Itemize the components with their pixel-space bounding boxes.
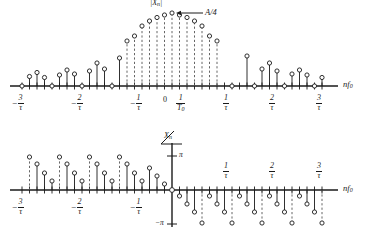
phase-ytick-pi: π [179,151,183,159]
peak-value-label: A/4 [205,8,217,17]
phase-xtick-2-tau: 2τ [269,162,275,180]
phase-y-axis-label: Xn [164,132,172,140]
phase-stems-right-solid [180,190,315,212]
phase-x-axis-label: nf0 [343,184,353,193]
magnitude-xtick--3-tau: −3τ [12,94,24,112]
magnitude-xtick-0: 0 [163,96,167,104]
phase-xtick--1-tau: −1τ [130,198,142,216]
phase-plot [10,131,338,227]
phase-xtick-1-tau: 1τ [223,162,229,180]
magnitude-xtick-3-tau: 3τ [316,94,322,112]
phase-xtick--3-tau: −3τ [12,198,24,216]
phase-ytick-neg-pi: −π [155,219,164,227]
phase-xtick--2-tau: −2τ [71,198,83,216]
magnitude-xtick-1-tau: 1τ [223,94,229,112]
spectra-figure [0,0,365,227]
phase-stems-left-solid [37,164,165,190]
magnitude-xtick-2-tau: 2τ [269,94,275,112]
peak-annotation-arrow [176,11,203,15]
magnitude-xtick--1-tau: −1τ [130,94,142,112]
magnitude-xtick-1-T0: 1T0 [176,94,185,112]
magnitude-xtick--2-tau: −2τ [71,94,83,112]
magnitude-plot [10,11,338,90]
magnitude-x-axis-label: nf0 [343,80,353,89]
phase-stems-right-dashed [202,190,322,223]
magnitude-y-axis-label: |Xn| [150,0,162,7]
phase-xtick-3-tau: 3τ [316,162,322,180]
